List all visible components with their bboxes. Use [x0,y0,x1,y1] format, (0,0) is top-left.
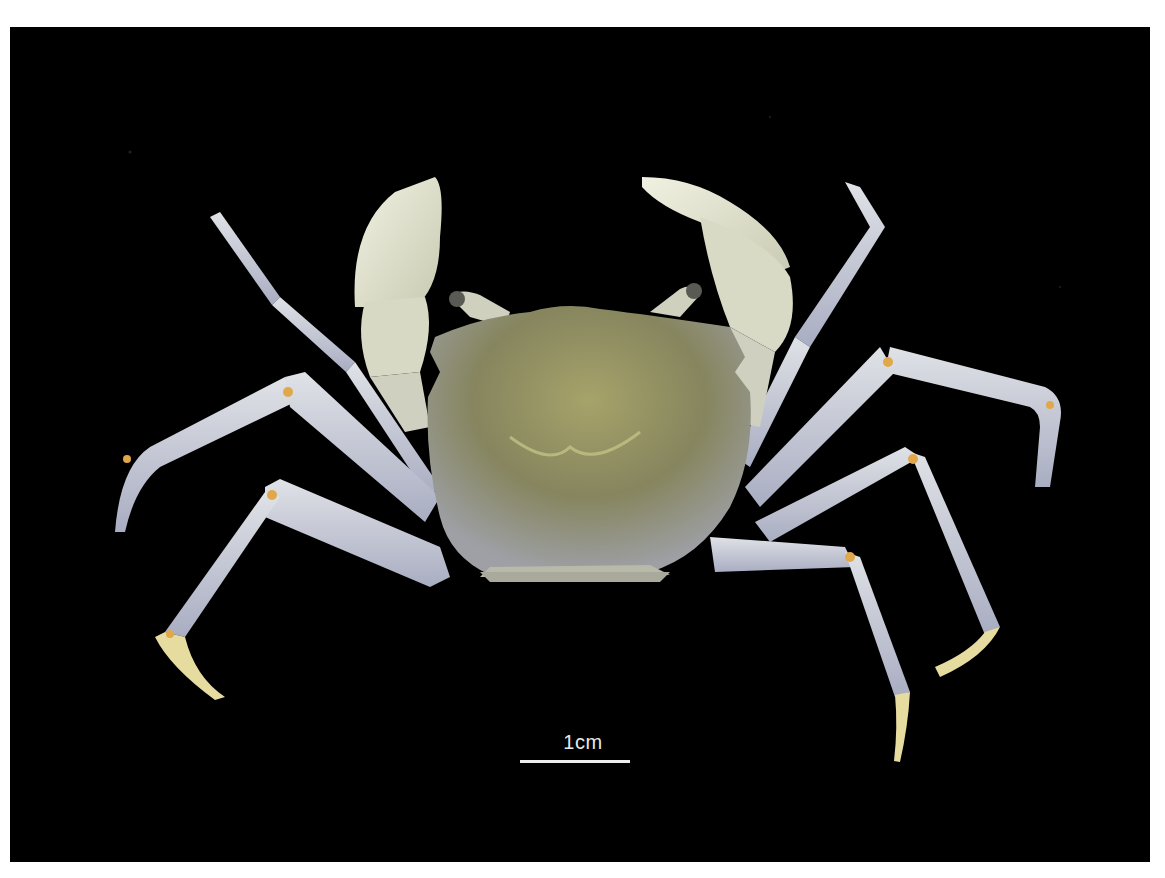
scale-bar [520,760,630,763]
specimen-photo: 1cm [10,27,1150,862]
carapace [428,306,751,582]
scale-bar-label: 1cm [553,731,613,754]
background-specks [129,116,1062,288]
